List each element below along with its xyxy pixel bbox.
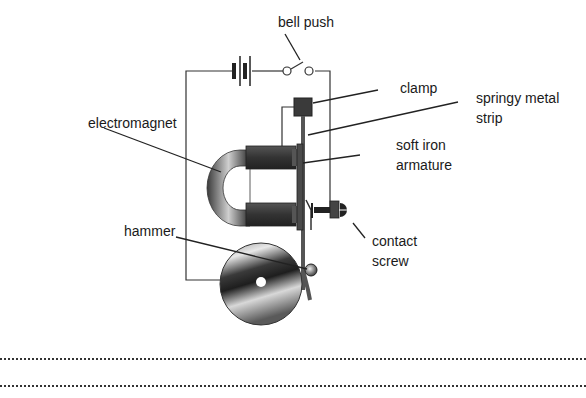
label-springy-metal-strip-2: strip [476, 110, 502, 127]
electromagnet-icon [207, 146, 298, 226]
label-springy-metal-strip-1: springy metal [476, 90, 559, 107]
label-contact-screw-1: contact [372, 233, 417, 250]
label-soft-iron-2: armature [396, 157, 452, 174]
label-contact-screw-2: screw [372, 253, 409, 270]
label-hammer: hammer [124, 223, 175, 240]
hammer-icon [305, 264, 317, 276]
bell-push-switch-icon [283, 62, 313, 75]
soft-iron-armature-icon [297, 144, 303, 230]
battery-icon [232, 56, 250, 86]
label-clamp: clamp [400, 80, 437, 97]
label-electromagnet: electromagnet [88, 115, 177, 132]
gong-icon [220, 243, 302, 325]
electric-bell-diagram [0, 0, 586, 398]
label-bell-push: bell push [278, 14, 334, 31]
answer-line-1[interactable] [0, 358, 586, 360]
answer-line-2[interactable] [0, 385, 586, 387]
label-soft-iron-1: soft iron [396, 137, 446, 154]
clamp-icon [294, 98, 312, 116]
